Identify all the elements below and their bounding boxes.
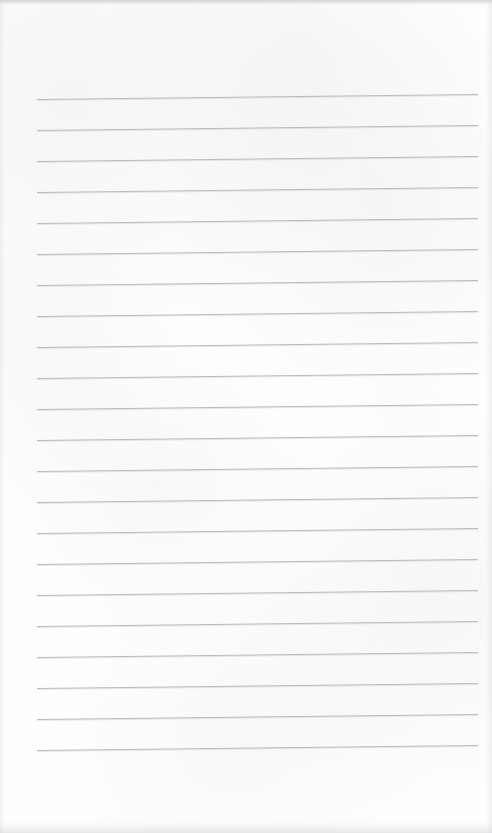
notepad-page bbox=[0, 0, 492, 833]
writing-area[interactable] bbox=[37, 90, 478, 758]
